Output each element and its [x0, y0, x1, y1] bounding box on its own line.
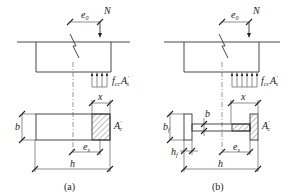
h-label: h [70, 158, 75, 169]
N-label: N [103, 5, 112, 16]
arrow-down-icon [247, 33, 251, 38]
compression-zone [92, 114, 110, 140]
eccentric-compression-diagram: e0 N fccA′s x A′c [0, 0, 286, 196]
es-label: es [233, 141, 240, 153]
Ac-label: A′c [113, 120, 122, 132]
stress-arrows [231, 72, 258, 87]
e0-label: e0 [81, 9, 88, 21]
member-outline [184, 42, 259, 72]
arrow-down-icon [98, 33, 102, 38]
web-b-label: b [205, 108, 210, 119]
panel-a-section: x A′c b es h [15, 91, 122, 172]
stress-resultant-label: fccA′s [112, 75, 130, 87]
stress-arrows [91, 72, 108, 87]
b-label: b [15, 121, 20, 132]
panel-b: e0 N fccA′s [163, 5, 280, 193]
h-label: h [218, 158, 223, 169]
panel-a: e0 N fccA′s x A′c [15, 5, 130, 193]
N-label: N [252, 5, 261, 16]
x-label: x [97, 91, 103, 102]
e0-label: e0 [231, 9, 238, 21]
left-flange [184, 114, 192, 140]
break-line [70, 34, 79, 58]
x-label: x [240, 91, 246, 102]
caption-b: (b) [212, 181, 224, 193]
es-label: es [83, 141, 90, 153]
panel-b-section: x A′c bf b hf es [163, 91, 270, 172]
stress-resultant-label: fccA′s [261, 75, 279, 87]
web-compression-zone [232, 124, 250, 131]
right-flange-compression [250, 114, 258, 140]
break-line [219, 34, 228, 58]
hf-label: hf [171, 146, 179, 158]
caption-a: (a) [64, 181, 75, 193]
Ac-label: A′c [261, 120, 270, 132]
